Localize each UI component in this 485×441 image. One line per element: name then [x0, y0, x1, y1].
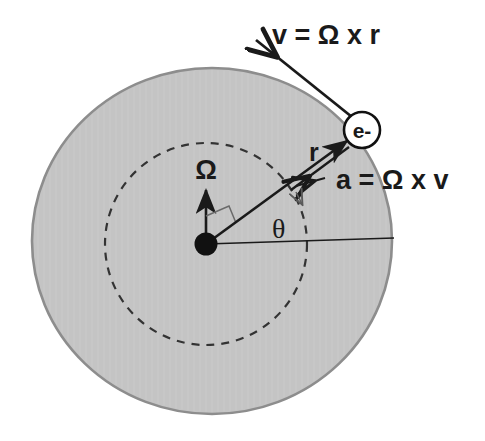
angle-label: θ — [272, 213, 285, 244]
origin-dot — [195, 233, 218, 256]
angular-velocity-label: Ω — [195, 155, 217, 185]
rotating-frame-diagram: e- v = Ω x r a = Ω x v r θ Ω — [0, 0, 485, 441]
radius-label: r — [309, 138, 319, 166]
electron-label: e- — [353, 119, 372, 142]
velocity-label: v = Ω x r — [272, 20, 380, 50]
acceleration-label: a = Ω x v — [336, 165, 448, 195]
diagram-canvas: e- v = Ω x r a = Ω x v r θ Ω — [0, 0, 485, 441]
